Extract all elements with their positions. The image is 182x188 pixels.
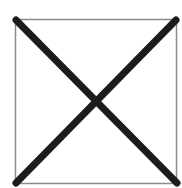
crossed-square-figure	[0, 0, 182, 188]
